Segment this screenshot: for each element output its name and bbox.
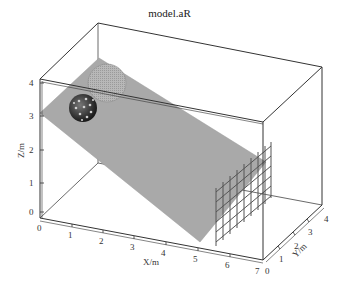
- x-tick-6: 6: [225, 260, 230, 270]
- z-tick-0: 0: [29, 207, 34, 217]
- z-tick-4: 4: [29, 78, 34, 88]
- x-tick-5: 5: [193, 254, 198, 264]
- x-tick-0: 0: [37, 223, 42, 233]
- z-tick-2: 2: [29, 145, 34, 155]
- spherical-boulder: [88, 64, 126, 102]
- y-tick-1: 1: [279, 254, 284, 264]
- y-tick-0: 0: [265, 266, 270, 276]
- particle-cluster: [69, 94, 97, 122]
- x-tick-2: 2: [99, 236, 104, 246]
- z-axis-label: Z/m: [16, 143, 26, 158]
- x-tick-1: 1: [68, 230, 73, 240]
- z-tick-3: 3: [29, 111, 34, 121]
- x-tick-7: 7: [255, 266, 260, 276]
- 3d-plot: 4 3 2 1 0 Z/m 0 1 2 3 4 5 6 7 X/m 0: [0, 0, 339, 283]
- z-tick-1: 1: [29, 178, 34, 188]
- x-tick-4: 4: [161, 248, 166, 258]
- y-tick-3: 3: [308, 227, 313, 237]
- x-tick-3: 3: [130, 242, 135, 252]
- x-axis-label: X/m: [143, 257, 159, 267]
- y-axis: 0 1 2 3 4 Y/m: [265, 214, 329, 276]
- y-tick-4: 4: [324, 214, 329, 224]
- x-axis: 0 1 2 3 4 5 6 7 X/m: [37, 223, 260, 276]
